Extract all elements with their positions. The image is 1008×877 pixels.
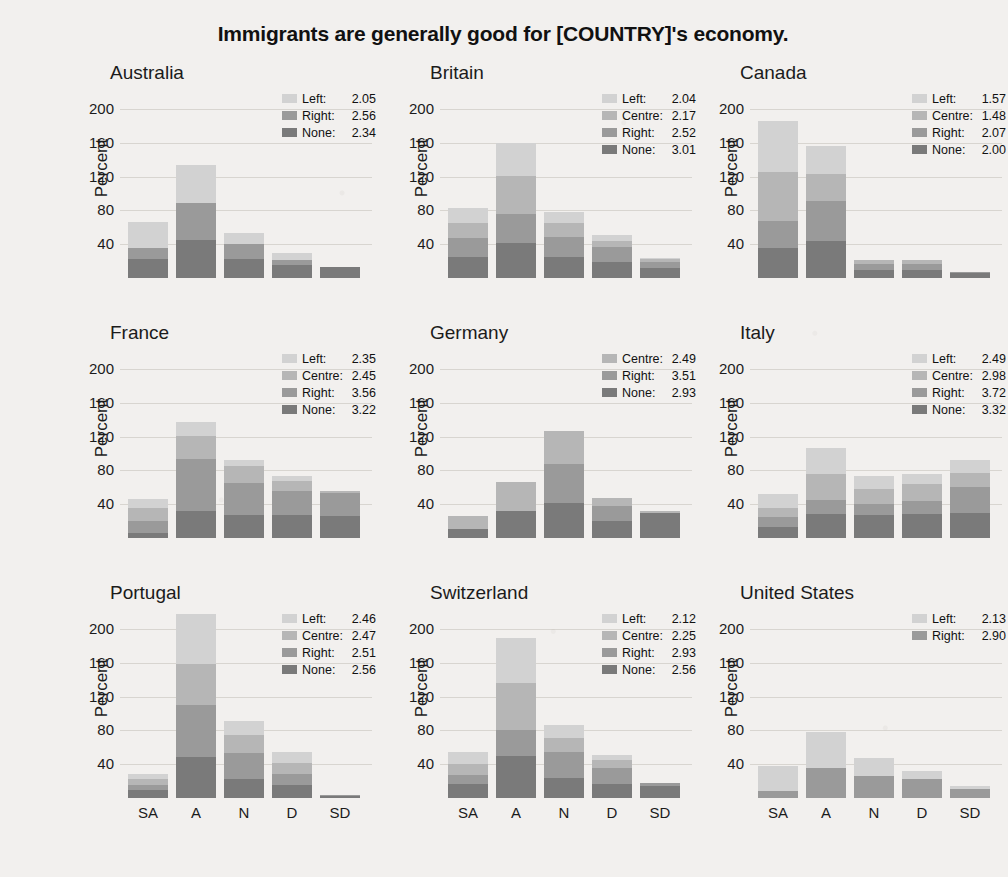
bar-sd[interactable] xyxy=(640,511,680,538)
bar-sa[interactable] xyxy=(758,766,798,798)
legend-value: 3.56 xyxy=(346,386,376,400)
panel-title: Italy xyxy=(740,322,775,344)
legend-item-left[interactable]: Left:2.35 xyxy=(282,350,376,367)
legend-item-left[interactable]: Left:1.57 xyxy=(912,90,1006,107)
bar-segment-none xyxy=(176,511,216,538)
bar-a[interactable] xyxy=(176,614,216,798)
legend-item-none[interactable]: None:2.56 xyxy=(282,661,376,678)
legend-item-left[interactable]: Left:2.04 xyxy=(602,90,696,107)
legend-item-left[interactable]: Left:2.12 xyxy=(602,610,696,627)
legend-item-none[interactable]: None:3.01 xyxy=(602,141,696,158)
bar-d[interactable] xyxy=(592,755,632,798)
bar-n[interactable] xyxy=(224,233,264,278)
bar-segment-left xyxy=(758,121,798,172)
x-tick-label: D xyxy=(902,804,942,821)
bar-sd[interactable] xyxy=(950,460,990,538)
bar-d[interactable] xyxy=(272,253,312,278)
bar-a[interactable] xyxy=(806,146,846,278)
bar-a[interactable] xyxy=(806,732,846,798)
bar-n[interactable] xyxy=(854,476,894,538)
legend-item-right[interactable]: Right:3.72 xyxy=(912,384,1006,401)
legend-item-none[interactable]: None:3.32 xyxy=(912,401,1006,418)
legend-item-right[interactable]: Right:2.52 xyxy=(602,124,696,141)
bar-sa[interactable] xyxy=(448,516,488,538)
bar-sd[interactable] xyxy=(640,258,680,278)
bar-a[interactable] xyxy=(496,638,536,798)
bar-n[interactable] xyxy=(544,431,584,538)
panel-united-states: United StatesPercent4080120160200SAANDSD… xyxy=(688,582,1008,837)
bar-d[interactable] xyxy=(272,752,312,798)
bar-n[interactable] xyxy=(224,721,264,798)
y-tick-label: 200 xyxy=(409,620,434,637)
bar-sa[interactable] xyxy=(758,121,798,278)
legend-item-none[interactable]: None:2.93 xyxy=(602,384,696,401)
legend-swatch-none xyxy=(282,405,297,414)
bar-sa[interactable] xyxy=(758,494,798,538)
legend-item-right[interactable]: Right:2.56 xyxy=(282,107,376,124)
bar-d[interactable] xyxy=(902,260,942,278)
y-tick-label: 80 xyxy=(727,201,744,218)
bar-a[interactable] xyxy=(496,143,536,278)
legend-item-right[interactable]: Right:2.07 xyxy=(912,124,1006,141)
legend-value: 2.56 xyxy=(346,109,376,123)
legend-item-centre[interactable]: Centre:1.48 xyxy=(912,107,1006,124)
bar-d[interactable] xyxy=(272,476,312,538)
bar-d[interactable] xyxy=(592,498,632,539)
legend-item-left[interactable]: Left:2.46 xyxy=(282,610,376,627)
bar-sd[interactable] xyxy=(320,267,360,278)
legend-item-none[interactable]: None:2.56 xyxy=(602,661,696,678)
legend-item-centre[interactable]: Centre:2.45 xyxy=(282,367,376,384)
bar-a[interactable] xyxy=(176,165,216,278)
bar-sa[interactable] xyxy=(128,222,168,278)
legend-item-right[interactable]: Right:3.56 xyxy=(282,384,376,401)
bar-n[interactable] xyxy=(854,758,894,798)
bar-n[interactable] xyxy=(544,725,584,798)
bar-segment-none xyxy=(496,756,536,798)
legend-item-none[interactable]: None:3.22 xyxy=(282,401,376,418)
bar-sd[interactable] xyxy=(950,786,990,798)
legend-item-none[interactable]: None:2.00 xyxy=(912,141,1006,158)
bar-n[interactable] xyxy=(544,212,584,278)
bar-sd[interactable] xyxy=(950,272,990,278)
legend-item-right[interactable]: Right:2.90 xyxy=(912,627,1006,644)
bar-d[interactable] xyxy=(592,235,632,278)
bar-sd[interactable] xyxy=(320,491,360,538)
bar-d[interactable] xyxy=(902,474,942,538)
panel-title: Portugal xyxy=(110,582,181,604)
legend-swatch-right xyxy=(912,631,927,640)
bar-sa[interactable] xyxy=(128,774,168,798)
bar-segment-none xyxy=(448,257,488,278)
bar-sd[interactable] xyxy=(640,783,680,798)
bar-segment-none xyxy=(448,529,488,538)
legend-item-left[interactable]: Left:2.13 xyxy=(912,610,1006,627)
bar-segment-centre xyxy=(806,474,846,500)
bar-n[interactable] xyxy=(854,260,894,278)
bar-segment-none xyxy=(640,786,680,798)
bar-a[interactable] xyxy=(176,422,216,539)
legend-item-centre[interactable]: Centre:2.17 xyxy=(602,107,696,124)
bar-segment-right xyxy=(950,789,990,798)
legend-label: None: xyxy=(622,663,666,677)
legend-item-left[interactable]: Left:2.05 xyxy=(282,90,376,107)
legend-item-centre[interactable]: Centre:2.49 xyxy=(602,350,696,367)
bar-sa[interactable] xyxy=(128,499,168,538)
legend-item-right[interactable]: Right:2.93 xyxy=(602,644,696,661)
legend-item-centre[interactable]: Centre:2.47 xyxy=(282,627,376,644)
bar-n[interactable] xyxy=(224,460,264,538)
bar-segment-centre xyxy=(758,172,798,221)
legend-item-left[interactable]: Left:2.49 xyxy=(912,350,1006,367)
bar-sa[interactable] xyxy=(448,752,488,798)
legend-item-none[interactable]: None:2.34 xyxy=(282,124,376,141)
legend-item-centre[interactable]: Centre:2.25 xyxy=(602,627,696,644)
bar-a[interactable] xyxy=(806,448,846,538)
bar-a[interactable] xyxy=(496,482,536,538)
legend-swatch-right xyxy=(602,128,617,137)
legend-item-right[interactable]: Right:3.51 xyxy=(602,367,696,384)
legend-item-right[interactable]: Right:2.51 xyxy=(282,644,376,661)
bar-d[interactable] xyxy=(902,771,942,798)
bar-sa[interactable] xyxy=(448,208,488,278)
bar-segment-none xyxy=(544,257,584,278)
x-tick-label: A xyxy=(806,804,846,821)
legend-item-centre[interactable]: Centre:2.98 xyxy=(912,367,1006,384)
bar-sd[interactable] xyxy=(320,795,360,798)
